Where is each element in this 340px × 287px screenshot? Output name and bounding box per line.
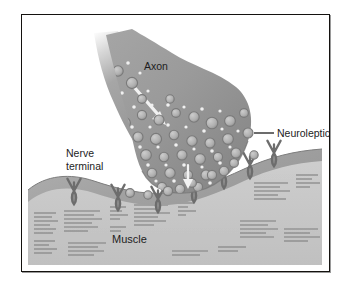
vesicle	[159, 152, 169, 162]
vesicle	[133, 132, 143, 142]
vesicle	[206, 117, 218, 129]
vesicle	[223, 134, 234, 145]
vesicle	[172, 109, 181, 118]
vesicle	[187, 136, 197, 146]
figure-frame: Axon Neuroleptics Nerve terminal Muscle	[21, 14, 330, 272]
vesicle-labeled	[243, 128, 253, 138]
label-axon: Axon	[144, 60, 168, 72]
vesicle	[240, 109, 249, 118]
neuromuscular-junction-diagram: Axon Neuroleptics Nerve terminal Muscle	[22, 15, 329, 271]
label-neuroleptics: Neuroleptics	[277, 127, 329, 139]
vesicle	[163, 186, 172, 195]
vesicle	[138, 95, 147, 104]
vesicle	[175, 184, 185, 194]
vesicle	[230, 159, 239, 168]
vesicle	[126, 77, 137, 88]
vesicle	[189, 112, 199, 122]
vesicle	[141, 150, 152, 161]
vesicle	[231, 148, 241, 158]
vesicle	[219, 166, 229, 176]
vesicle	[205, 138, 215, 148]
vesicle	[144, 191, 152, 199]
vesicle	[165, 168, 175, 178]
vesicle	[250, 151, 258, 159]
label-muscle: Muscle	[112, 233, 147, 245]
vesicle	[177, 150, 187, 160]
vesicle	[166, 95, 174, 103]
label-nerve-terminal-line2: terminal	[66, 160, 103, 172]
vesicle	[195, 154, 206, 165]
vesicle	[213, 152, 222, 161]
vesicle	[147, 168, 157, 178]
vesicle	[154, 115, 164, 125]
vesicle	[169, 130, 179, 140]
vesicle	[126, 189, 135, 198]
vesicle	[137, 110, 146, 119]
vesicle	[225, 116, 236, 127]
label-nerve-terminal-line1: Nerve	[66, 147, 94, 159]
vesicle	[207, 170, 216, 179]
vesicle	[150, 133, 161, 144]
